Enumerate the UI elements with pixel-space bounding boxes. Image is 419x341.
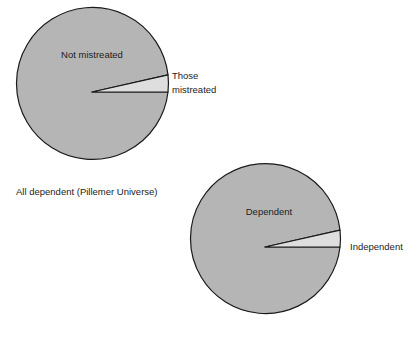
callout-label-independent: Independent <box>350 241 403 252</box>
slice-label-dependent: Dependent <box>246 206 293 217</box>
chart-pie-dependency: Dependent Independent <box>190 164 403 314</box>
slice-label-not-mistreated: Not mistreated <box>61 49 123 60</box>
chart-pie-dependent-mistreatment: Not mistreated Those mistreated All depe… <box>16 7 216 197</box>
callout-label-those-mistreated-line2: mistreated <box>172 84 216 95</box>
pie-chart-figure: Not mistreated Those mistreated All depe… <box>0 0 419 341</box>
chart-caption-pillemer-universe: All dependent (Pillemer Universe) <box>16 186 158 197</box>
figure-canvas: Not mistreated Those mistreated All depe… <box>0 0 419 341</box>
callout-label-those-mistreated-line1: Those <box>172 70 198 81</box>
